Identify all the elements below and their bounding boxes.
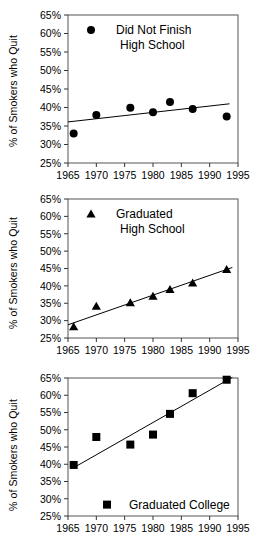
y-tick-label: 45% (40, 83, 61, 95)
square-marker (92, 433, 100, 441)
x-tick-label: 1980 (141, 522, 165, 534)
x-tick-label: 1995 (226, 344, 250, 356)
x-tick-label: 1970 (85, 169, 109, 181)
square-marker (103, 500, 111, 508)
circle-marker (126, 104, 134, 112)
chart-panel-graduated-high-school: % of Smokers who Quit 25%30%35%40%45%50%… (0, 183, 254, 363)
plot-area-3: 25%30%35%40%45%50%55%60%65%1965197019751… (0, 363, 254, 548)
y-tick-label: 55% (40, 227, 61, 239)
plot-frame (68, 378, 238, 516)
y-tick-label: 60% (40, 389, 61, 401)
legend-label-line2: High School (120, 38, 185, 52)
x-tick-label: 1995 (226, 522, 250, 534)
y-tick-label: 55% (40, 46, 61, 58)
x-tick-label: 1990 (198, 344, 222, 356)
y-tick-label: 40% (40, 279, 61, 291)
y-tick-label: 60% (40, 27, 61, 39)
square-marker (70, 461, 78, 469)
x-tick-label: 1975 (113, 169, 137, 181)
circle-marker (92, 111, 100, 119)
circle-marker (223, 112, 231, 120)
x-tick-label: 1970 (85, 522, 109, 534)
y-tick-label: 30% (40, 138, 61, 150)
y-tick-label: 65% (40, 192, 61, 204)
y-tick-label: 50% (40, 64, 61, 76)
x-tick-label: 1980 (141, 169, 165, 181)
x-tick-label: 1995 (226, 169, 250, 181)
y-tick-label: 50% (40, 245, 61, 257)
circle-marker (87, 26, 95, 34)
square-marker (223, 375, 231, 383)
y-tick-label: 40% (40, 101, 61, 113)
y-tick-label: 30% (40, 492, 61, 504)
y-tick-label: 35% (40, 475, 61, 487)
circle-marker (149, 108, 157, 116)
circle-marker (70, 129, 78, 137)
y-tick-label: 25% (40, 157, 61, 169)
x-tick-label: 1990 (198, 522, 222, 534)
y-tick-label: 35% (40, 297, 61, 309)
y-tick-label: 55% (40, 406, 61, 418)
x-tick-label: 1965 (56, 522, 80, 534)
y-tick-label: 25% (40, 331, 61, 343)
chart-panel-graduated-college: % of Smokers who Quit 25%30%35%40%45%50%… (0, 363, 254, 548)
y-tick-label: 35% (40, 120, 61, 132)
y-tick-label: 25% (40, 509, 61, 521)
legend-label-line1: Did Not Finish (116, 23, 191, 37)
x-tick-label: 1980 (141, 344, 165, 356)
circle-marker (166, 98, 174, 106)
square-marker (149, 430, 157, 438)
y-tick-label: 30% (40, 314, 61, 326)
y-tick-label: 40% (40, 458, 61, 470)
x-tick-label: 1965 (56, 169, 80, 181)
x-tick-label: 1975 (113, 522, 137, 534)
y-tick-label: 65% (40, 9, 61, 21)
x-tick-label: 1985 (170, 522, 194, 534)
x-tick-label: 1990 (198, 169, 222, 181)
y-tick-label: 45% (40, 440, 61, 452)
square-marker (166, 409, 174, 417)
square-marker (126, 440, 134, 448)
scatter-plot-3: 25%30%35%40%45%50%55%60%65%1965197019751… (0, 363, 254, 548)
plot-area-2: 25%30%35%40%45%50%55%60%65%1965197019751… (0, 183, 254, 363)
scatter-plot-2: 25%30%35%40%45%50%55%60%65%1965197019751… (0, 183, 254, 363)
y-tick-label: 50% (40, 423, 61, 435)
chart-panel-did-not-finish-high-school: % of Smokers who Quit 25%30%35%40%45%50%… (0, 0, 254, 183)
x-tick-label: 1965 (56, 344, 80, 356)
x-tick-label: 1970 (85, 344, 109, 356)
y-tick-label: 65% (40, 371, 61, 383)
legend-label-line1: Graduated College (129, 498, 230, 512)
x-tick-label: 1985 (170, 344, 194, 356)
x-tick-label: 1985 (170, 169, 194, 181)
square-marker (189, 389, 197, 397)
plot-area-1: 25%30%35%40%45%50%55%60%65%1965197019751… (0, 0, 254, 183)
y-tick-label: 60% (40, 210, 61, 222)
circle-marker (189, 105, 197, 113)
legend-label-line2: High School (120, 222, 185, 236)
x-tick-label: 1975 (113, 344, 137, 356)
scatter-plot-1: 25%30%35%40%45%50%55%60%65%1965197019751… (0, 0, 254, 183)
legend-label-line1: Graduated (116, 207, 173, 221)
y-tick-label: 45% (40, 262, 61, 274)
